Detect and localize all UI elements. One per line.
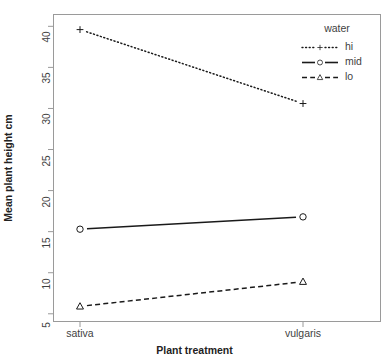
legend-entries: himidlo [300,39,376,84]
y-axis-tick-label: 30 [41,108,52,130]
y-axis-tick-labels: 510152025303540 [22,0,46,357]
y-axis-tick-label: 20 [41,191,52,213]
data-point-marker-circle [318,60,323,65]
y-axis-tick-label: 5 [41,314,52,336]
legend-key-lo [300,70,340,83]
legend-item-lo[interactable]: lo [300,69,376,84]
legend-item-mid[interactable]: mid [300,54,376,69]
y-axis-tick-label: 10 [41,273,52,295]
legend: water himidlo [300,22,376,84]
x-axis-tick-label: vulgaris [285,327,321,339]
legend-key-hi [300,40,340,53]
legend-item-hi[interactable]: hi [300,39,376,54]
x-axis-title: Plant treatment [0,344,389,356]
y-axis-tick-label: 35 [41,67,52,89]
y-axis-tick-label: 25 [41,150,52,172]
y-axis-tick-label: 40 [41,26,52,48]
legend-label-lo: lo [340,70,353,83]
data-point-marker-plus [317,45,322,50]
legend-key-mid [300,55,340,68]
y-axis-tick-label: 15 [41,232,52,254]
legend-label-hi: hi [340,40,353,53]
data-point-marker-triangle [317,75,322,80]
interaction-plot-figure: 510152025303540 Mean plant height cm sat… [0,0,389,357]
legend-label-mid: mid [340,55,362,68]
y-axis-title: Mean plant height cm [2,114,14,221]
x-axis-tick-label: sativa [66,327,93,339]
legend-title: water [300,22,376,34]
